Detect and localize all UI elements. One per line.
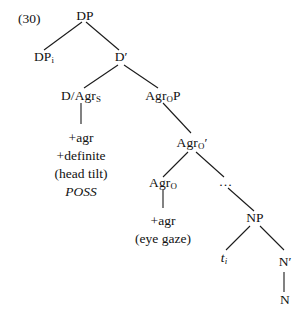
edge-dp-to-dpspec (44, 22, 82, 50)
node-agr-o-head-label: Agr (149, 175, 170, 190)
tree-branch-lines (0, 0, 303, 314)
node-ellipsis-label: … (219, 174, 234, 189)
feature-item: +definite (55, 147, 108, 165)
node-agr-o-p-subscript: O (167, 95, 174, 105)
feature-item: (head tilt) (55, 165, 108, 183)
edge-np-to-trace (226, 226, 250, 250)
node-d-bar: D′ (115, 50, 128, 64)
node-d-agr-s: D/AgrS (61, 89, 101, 103)
node-np-label: NP (246, 210, 263, 225)
node-agr-o-head-subscript: O (170, 182, 177, 192)
edge-agrobar-to-ellipsis (196, 152, 224, 177)
node-n: N (280, 293, 290, 307)
node-d-bar-label: D′ (115, 49, 128, 64)
edge-agrobar-to-agrohead (163, 152, 188, 177)
node-agr-o-bar-prime: ′ (204, 135, 207, 150)
syntax-tree-figure: (30) DP DPi D′ D/AgrS AgrOP AgrO′ AgrO …… (0, 0, 303, 314)
example-number: (30) (18, 11, 41, 27)
feature-item: +agr (135, 212, 191, 230)
node-agr-o-p: AgrOP (145, 89, 180, 103)
edge-dbar-to-dagrs (84, 65, 118, 88)
node-dp-specifier-subscript: i (51, 56, 54, 66)
node-ellipsis: … (219, 175, 234, 189)
edge-dbar-to-agrop (124, 65, 158, 88)
node-trace-subscript: i (225, 257, 228, 267)
node-agr-o-head: AgrO (149, 176, 177, 190)
node-agr-o-p-tail: P (173, 88, 181, 103)
node-agr-o-p-label: Agr (145, 88, 166, 103)
node-n-label: N (280, 292, 290, 307)
edge-ellipsis-to-np (228, 188, 254, 211)
node-d-agr-s-subscript: S (96, 95, 101, 105)
node-dp-root: DP (76, 9, 93, 23)
feature-item-poss: POSS (55, 183, 108, 201)
node-d-agr-s-label: D/Agr (61, 88, 96, 103)
edge-agrop-to-agrobar (163, 103, 191, 133)
edge-np-to-nbar (260, 226, 284, 250)
edge-dp-to-dbar (86, 22, 119, 50)
feature-item: +agr (55, 129, 108, 147)
node-dp-specifier-label: DP (34, 49, 51, 64)
node-trace: ti (221, 251, 227, 265)
node-dp-root-label: DP (76, 8, 93, 23)
node-agr-o-bar: AgrO′ (177, 136, 208, 150)
node-dp-specifier: DPi (34, 50, 54, 64)
feature-item: (eye gaze) (135, 230, 191, 248)
node-agr-o-bar-label: Agr (177, 135, 198, 150)
node-n-bar-label: N′ (279, 254, 292, 269)
node-n-bar: N′ (279, 255, 292, 269)
feature-block-d-agr-s: +agr +definite (head tilt) POSS (55, 129, 108, 201)
node-np: NP (246, 211, 263, 225)
node-agr-o-bar-subscript: O (198, 142, 205, 152)
feature-block-agr-o: +agr (eye gaze) (135, 212, 191, 248)
